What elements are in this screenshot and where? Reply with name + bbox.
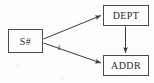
diagram-canvas: S# DEPT ADDR t xyxy=(0,0,154,83)
node-dept: DEPT xyxy=(103,5,149,26)
edge-label-supplier-to-addr: t xyxy=(58,43,60,52)
node-supplier: S# xyxy=(8,29,43,53)
edge-supplier-to-dept xyxy=(44,16,102,40)
node-addr: ADDR xyxy=(103,55,149,76)
edge-supplier-to-addr xyxy=(44,43,102,63)
